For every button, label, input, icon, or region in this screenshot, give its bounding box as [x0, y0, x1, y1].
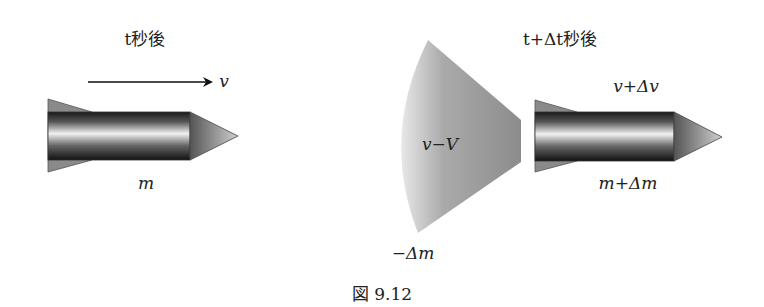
- exhaust-cloud: [401, 40, 521, 233]
- figure-caption: 図 9.12: [352, 280, 412, 305]
- exhaust-mass-label: −Δm: [392, 243, 435, 263]
- nose-cone: [674, 112, 722, 161]
- diagram-canvas: [0, 0, 764, 307]
- nose-cone: [190, 112, 238, 160]
- after-title: t+Δt秒後: [523, 25, 597, 50]
- before-mass-label: m: [138, 173, 154, 193]
- rocket-after: [535, 100, 722, 172]
- rocket-body: [535, 112, 674, 161]
- exhaust-velocity-label: v−V: [422, 134, 458, 154]
- after-velocity-label: v+Δv: [613, 76, 659, 96]
- before-velocity-label: v: [219, 71, 229, 91]
- before-title: t秒後: [125, 25, 166, 50]
- after-mass-label: m+Δm: [599, 173, 658, 193]
- rocket-body: [48, 112, 190, 160]
- rocket-before: [48, 99, 238, 172]
